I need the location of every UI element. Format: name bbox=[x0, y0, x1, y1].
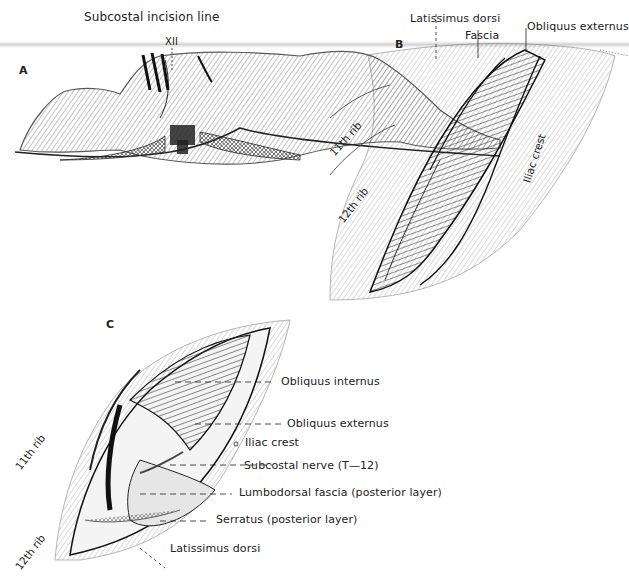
subcostal-incision-line-label: Subcostal incision line bbox=[84, 10, 219, 24]
obliquus-externus-label-b: Obliquus externus bbox=[527, 20, 629, 33]
panel-c-letter: C bbox=[106, 318, 114, 331]
serratus-label: Serratus (posterior layer) bbox=[216, 513, 358, 526]
lumbodorsal-fascia-label: Lumbodorsal fascia (posterior layer) bbox=[239, 486, 442, 499]
latissimus-dorsi-label-b: Latissimus dorsi bbox=[410, 12, 500, 25]
panel-b-letter: B bbox=[395, 38, 403, 51]
xii-vertebra-label: XII bbox=[165, 36, 178, 47]
iliac-crest-label-c: Iliac crest bbox=[245, 436, 299, 449]
panel-b-drawing bbox=[330, 14, 629, 300]
fascia-label: Fascia bbox=[465, 29, 499, 42]
subcostal-nerve-label: Subcostal nerve (T—12) bbox=[244, 459, 379, 472]
obliquus-externus-label-c: Obliquus externus bbox=[287, 417, 389, 430]
panel-a-letter: A bbox=[19, 64, 28, 77]
latissimus-dorsi-label-c: Latissimus dorsi bbox=[170, 542, 260, 555]
obliquus-internus-label: Obliquus internus bbox=[281, 375, 380, 388]
